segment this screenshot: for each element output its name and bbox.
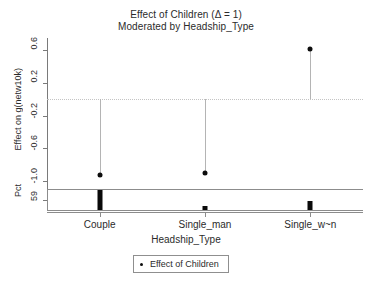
chart-title-line-2: Moderated by Headship_Type xyxy=(0,21,372,33)
x-tick xyxy=(205,213,206,217)
data-point[interactable] xyxy=(308,46,313,51)
y-tick-label: 0.6 xyxy=(29,37,39,50)
y-tick xyxy=(43,83,47,84)
x-tick-label: Couple xyxy=(84,219,116,230)
x-tick-label: Single_man xyxy=(179,219,232,230)
stem-line xyxy=(310,49,311,100)
pct-bar xyxy=(308,201,313,210)
data-point[interactable] xyxy=(97,173,102,178)
y-tick xyxy=(43,50,47,51)
x-tick xyxy=(310,213,311,217)
x-tick-label: Single_w~n xyxy=(284,219,336,230)
y-tick xyxy=(43,148,47,149)
y-tick-label: 0.2 xyxy=(29,70,39,83)
legend-entry-label: Effect of Children xyxy=(150,259,219,269)
y-tick-label: -0.6 xyxy=(29,135,39,151)
x-axis-label: Headship_Type xyxy=(0,234,372,245)
stem-line xyxy=(205,99,206,172)
pct-strip-panel xyxy=(47,189,363,211)
y-axis-label-pct: Pct xyxy=(13,184,23,197)
chart-figure: Effect of Children (Δ = 1) Moderated by … xyxy=(0,0,372,288)
pct-bar xyxy=(203,206,208,210)
chart-title: Effect of Children (Δ = 1) Moderated by … xyxy=(0,9,372,33)
pct-strip-bottom-border xyxy=(47,210,363,211)
y-tick-label: -0.2 xyxy=(29,103,39,119)
y-tick-label: -1.0 xyxy=(29,168,39,184)
x-tick xyxy=(100,213,101,217)
pct-bar xyxy=(97,190,102,210)
plot-panel xyxy=(47,38,363,193)
chart-legend[interactable]: Effect of Children xyxy=(133,255,229,273)
y-tick xyxy=(43,181,47,182)
pct-axis-line xyxy=(47,189,48,211)
data-point[interactable] xyxy=(203,170,208,175)
y-axis-line xyxy=(47,38,48,193)
chart-title-line-1: Effect of Children (Δ = 1) xyxy=(0,9,372,21)
pct-strip-top-border xyxy=(47,189,363,190)
pct-tick-label: 59 xyxy=(29,191,39,201)
point-marker-icon xyxy=(140,263,143,266)
stem-line xyxy=(100,99,101,175)
pct-tick-59 xyxy=(43,200,47,201)
y-axis-label: Effect on g(netw10k) xyxy=(13,68,23,150)
y-tick xyxy=(43,116,47,117)
